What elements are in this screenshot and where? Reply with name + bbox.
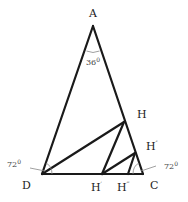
label-H-prime: H′ [91, 180, 103, 194]
label-C: C [150, 179, 158, 192]
label-H1-base: H [91, 181, 101, 194]
tick-C [141, 166, 156, 171]
label-H3-prime: ‴ [127, 180, 130, 187]
angle-label-A: 360 [86, 56, 100, 67]
label-H2-base: H [146, 140, 156, 153]
side-AD [42, 26, 93, 174]
label-H3-base: H [117, 181, 127, 194]
angle-label-D: 720 [7, 158, 21, 169]
segment-DH [42, 122, 124, 174]
label-A: A [88, 7, 98, 20]
label-D: D [22, 179, 31, 192]
angle-label-C: 720 [164, 160, 178, 171]
label-H1-prime: ′ [101, 180, 103, 187]
triangle-diagram: A D C H H′ H″ H‴ 360 720 720 [0, 0, 188, 202]
label-H: H [137, 108, 147, 121]
side-AC [93, 26, 143, 174]
angle-arc-C [133, 163, 139, 174]
label-H-triple-prime: H‴ [117, 180, 130, 194]
label-H-double-prime: H″ [146, 139, 159, 153]
label-H2-prime: ″ [156, 139, 159, 146]
angle-arc-A [87, 51, 100, 53]
